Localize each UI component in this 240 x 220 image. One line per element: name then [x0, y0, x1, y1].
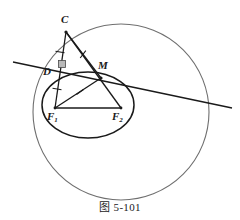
geometry-figure: C D M F1 F2 图 5-101: [0, 0, 240, 220]
vertex-dot-f1: [54, 107, 57, 110]
point-label-f1: F1: [47, 111, 58, 122]
segment-c-f2: [66, 32, 121, 108]
point-label-c-text: C: [61, 13, 68, 25]
point-label-c: C: [61, 14, 68, 25]
point-label-f2: F2: [112, 111, 123, 122]
point-label-d-text: D: [43, 65, 51, 77]
right-angle-marker: [59, 61, 66, 68]
point-label-f1-sub: 1: [54, 116, 58, 124]
point-label-m: M: [98, 60, 108, 71]
point-label-m-text: M: [98, 59, 108, 71]
vertex-dot-m: [99, 76, 102, 79]
figure-caption: 图 5-101: [0, 198, 240, 214]
tick-mark-f1m: [77, 90, 84, 95]
point-label-d: D: [43, 66, 51, 77]
point-label-f2-sub: 2: [119, 116, 123, 124]
vertex-dot-c: [64, 30, 67, 33]
segment-c-f1: [55, 32, 66, 108]
vertex-dot-f2: [120, 107, 123, 110]
geometry-diagram: [0, 0, 240, 220]
tick-mark-df1: [53, 88, 62, 89]
